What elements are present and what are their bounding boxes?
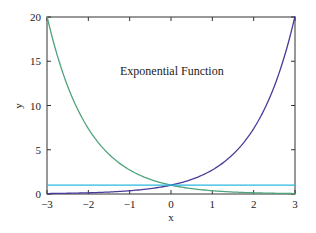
x-axis-label: x <box>168 211 174 223</box>
y-tick-label: 20 <box>30 11 42 23</box>
x-tick-label: 2 <box>251 198 257 210</box>
y-axis-label: y <box>12 103 24 109</box>
y-tick-label: 15 <box>30 55 42 67</box>
series-line <box>47 16 295 193</box>
series-line <box>47 16 295 193</box>
x-tick-label: 1 <box>210 198 216 210</box>
x-tick-label: −3 <box>41 198 53 210</box>
y-tick-label: 0 <box>36 188 42 200</box>
series-group <box>47 16 295 193</box>
x-tick-label: 3 <box>292 198 298 210</box>
axis-ticks: −3−2−1012305101520 <box>30 11 298 210</box>
exponential-chart: −3−2−1012305101520 Exponential Function … <box>0 0 316 233</box>
chart-annotation: Exponential Function <box>120 64 224 78</box>
x-tick-label: −2 <box>82 198 94 210</box>
y-tick-label: 5 <box>36 144 42 156</box>
x-tick-label: −1 <box>124 198 136 210</box>
y-tick-label: 10 <box>30 100 42 112</box>
x-tick-label: 0 <box>168 198 174 210</box>
axes-frame <box>47 17 295 194</box>
